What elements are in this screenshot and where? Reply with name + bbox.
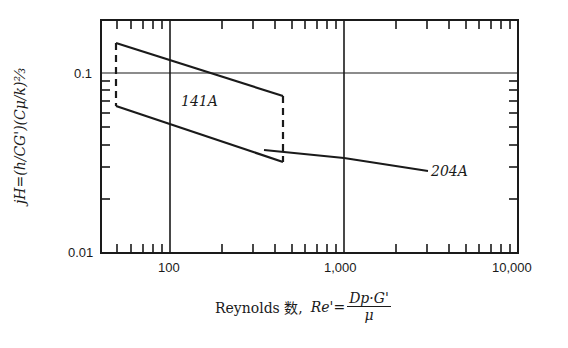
series-141A-lower-line: [116, 106, 283, 162]
series-label-141A: 141A: [181, 93, 218, 109]
series-141A-upper-line: [116, 43, 283, 96]
y-tick-0.1: 0.1: [74, 66, 92, 81]
x-axis-label-re: Re'=: [311, 299, 345, 315]
x-axis-label: Reynolds 数, Re'= Dp·G' μ: [215, 290, 391, 323]
x-tick-100: 100: [158, 260, 180, 275]
x-axis-label-fraction: Dp·G' μ: [347, 290, 391, 323]
x-axis-label-numerator: Dp·G': [347, 290, 391, 307]
x-tick-10000: 10,000: [492, 260, 532, 275]
x-axis-label-prefix: Reynolds 数,: [215, 297, 303, 317]
y-tick-0.01: 0.01: [68, 245, 93, 260]
x-axis-label-denominator: μ: [362, 307, 375, 323]
x-tick-1000: 1,000: [324, 260, 357, 275]
y-axis-label: jH=(h/CG')(Cμ/k)⅔: [12, 68, 28, 204]
x-minor-ticks: [117, 20, 510, 253]
plot-frame: [101, 20, 518, 253]
series-label-204A: 204A: [430, 163, 468, 179]
y-minor-ticks: [101, 81, 518, 199]
series-204A-line: [264, 150, 428, 171]
